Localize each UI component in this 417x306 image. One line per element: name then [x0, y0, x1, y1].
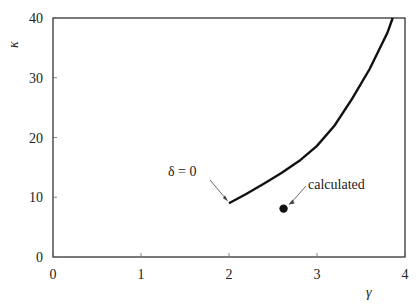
- tick-labels: 01234010203040: [29, 11, 409, 282]
- annotation-calculated: calculated: [308, 177, 365, 192]
- y-tick-label: 0: [36, 250, 43, 265]
- x-tick-label: 2: [226, 267, 233, 282]
- y-tick-label: 20: [29, 131, 43, 146]
- calculated-point: [279, 204, 287, 212]
- annotations: δ = 0calculated: [168, 164, 365, 205]
- x-tick-label: 3: [314, 267, 321, 282]
- x-axis-label: γ: [366, 285, 372, 300]
- y-axis-label: κ: [6, 41, 21, 48]
- y-tick-label: 40: [29, 11, 43, 26]
- x-tick-label: 4: [402, 267, 409, 282]
- y-tick-label: 10: [29, 190, 43, 205]
- chart: 01234010203040 γ κ δ = 0calculated: [0, 0, 417, 306]
- x-tick-label: 1: [138, 267, 145, 282]
- y-tick-label: 30: [29, 71, 43, 86]
- delta-zero-curve: [229, 18, 393, 203]
- axis-ticks: [53, 18, 405, 257]
- x-tick-label: 0: [50, 267, 57, 282]
- annotation-delta-zero: δ = 0: [168, 164, 197, 179]
- plot-frame: [53, 18, 405, 257]
